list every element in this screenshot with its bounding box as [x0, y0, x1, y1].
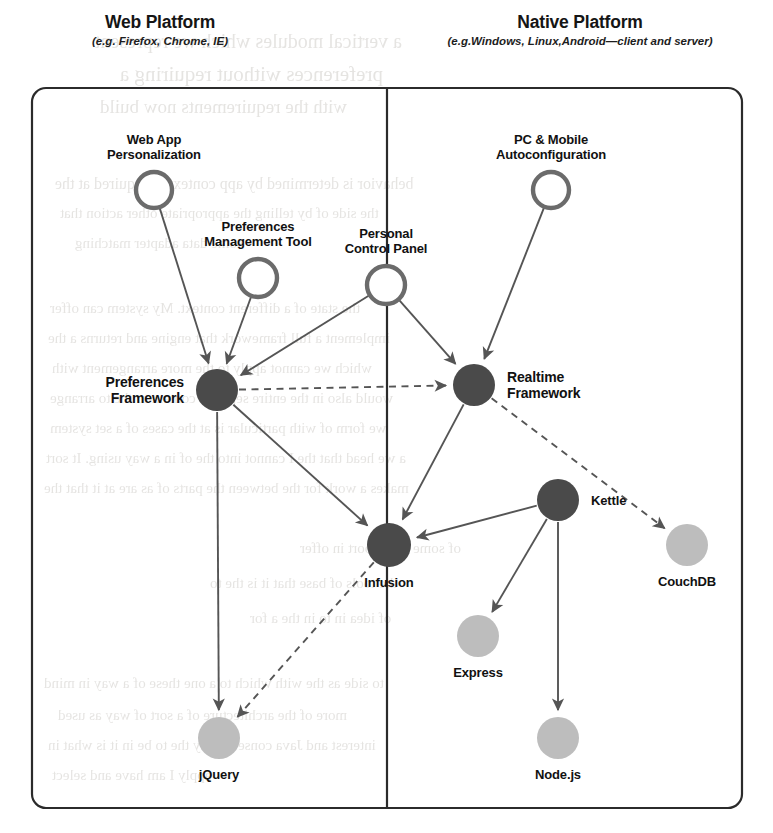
node-label-realtime: RealtimeFramework	[507, 369, 677, 402]
node-label-line2-pcp: Control Panel	[301, 241, 471, 256]
node-label-line1-webapp: Web App	[69, 132, 239, 147]
node-label-jquery: jQuery	[134, 767, 304, 782]
node-label-line1-pcp: Personal	[301, 226, 471, 241]
node-label-line1-kettle: Kettle	[591, 493, 761, 508]
node-label-kettle: Kettle	[591, 493, 761, 508]
edge-pcp-to-realtime	[399, 300, 455, 364]
edge-realtime-to-couchdb	[492, 398, 665, 528]
edge-kettle-to-infusion	[417, 506, 537, 538]
edge-prefsfw-to-infusion	[233, 405, 367, 526]
diagram-stage: Web Platform (e.g. Firefox, Chrome, IE) …	[0, 0, 773, 833]
node-label-line2-webapp: Personalization	[69, 147, 239, 162]
node-nodejs[interactable]	[537, 717, 579, 759]
node-prefsfw[interactable]	[196, 369, 238, 411]
node-label-nodejs: Node.js	[473, 767, 643, 782]
node-label-line2-prefsfw: Framework	[14, 390, 184, 407]
node-label-line1-pcmobile: PC & Mobile	[466, 132, 636, 147]
node-label-line1-express: Express	[393, 665, 563, 680]
node-label-line2-pcmobile: Autoconfiguration	[466, 147, 636, 162]
node-label-line1-couchdb: CouchDB	[602, 574, 772, 589]
node-prefstool[interactable]	[239, 259, 277, 297]
edge-prefsfw-to-realtime	[239, 386, 446, 390]
node-couchdb[interactable]	[666, 524, 708, 566]
node-label-pcmobile: PC & MobileAutoconfiguration	[466, 132, 636, 162]
node-jquery[interactable]	[198, 717, 240, 759]
node-label-express: Express	[393, 665, 563, 680]
node-label-line1-infusion: Infusion	[304, 575, 474, 590]
edge-prefstool-to-prefsfw	[227, 297, 251, 364]
edge-realtime-to-infusion	[403, 404, 464, 519]
node-label-infusion: Infusion	[304, 575, 474, 590]
edge-pcmobile-to-realtime	[484, 208, 544, 359]
node-express[interactable]	[457, 615, 499, 657]
node-label-prefsfw: PreferencesFramework	[14, 374, 184, 407]
node-label-pcp: PersonalControl Panel	[301, 226, 471, 256]
node-label-line1-prefsfw: Preferences	[14, 374, 184, 391]
diagram-canvas	[0, 0, 773, 833]
node-label-couchdb: CouchDB	[602, 574, 772, 589]
edge-layer	[160, 208, 665, 717]
edge-kettle-to-express	[492, 519, 547, 612]
node-webapp[interactable]	[136, 172, 172, 208]
edge-pcp-to-prefsfw	[241, 296, 369, 376]
node-label-webapp: Web AppPersonalization	[69, 132, 239, 162]
node-pcp[interactable]	[367, 266, 405, 304]
node-label-line1-jquery: jQuery	[134, 767, 304, 782]
node-kettle[interactable]	[537, 479, 579, 521]
node-label-line1-nodejs: Node.js	[473, 767, 643, 782]
node-infusion[interactable]	[367, 523, 411, 567]
edge-prefsfw-to-jquery	[217, 412, 219, 710]
node-pcmobile[interactable]	[533, 172, 569, 208]
node-label-line1-realtime: Realtime	[507, 369, 677, 386]
node-realtime[interactable]	[453, 364, 495, 406]
node-label-line2-realtime: Framework	[507, 385, 677, 402]
